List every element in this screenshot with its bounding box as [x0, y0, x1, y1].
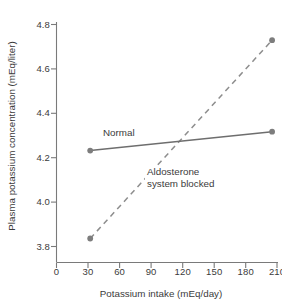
x-tick-0: 0 [40, 266, 74, 278]
y-tick-4.4: 4.4 [22, 108, 50, 118]
y-tick-4.0: 4.0 [22, 197, 50, 207]
y-tick-4.2: 4.2 [22, 153, 50, 163]
chart-figure: 4.8 4.6 4.4 4.2 4.0 3.8 0 30 60 90 120 1… [0, 0, 282, 308]
series-label-normal: Normal [101, 127, 137, 139]
x-tick-label: 60 [103, 266, 137, 278]
data-point-blocked-high [269, 37, 275, 43]
x-tick-label: 30 [71, 266, 105, 278]
x-tick-label: 210 [260, 266, 282, 278]
y-tick-label: 4.4 [24, 108, 50, 118]
y-tick-label: 3.8 [24, 242, 50, 252]
x-tick-label: 0 [40, 266, 74, 278]
y-tick-label: 4.0 [24, 197, 50, 207]
y-tick-3.8: 3.8 [22, 242, 50, 252]
series-label-aldosterone-blocked: Aldosterone system blocked [145, 166, 217, 189]
x-tick-label: 90 [134, 266, 168, 278]
y-tick-label: 4.6 [24, 64, 50, 74]
x-tick-60: 60 [103, 266, 137, 278]
data-point-normal-high [269, 129, 275, 135]
series-label-normal-text: Normal [103, 127, 135, 139]
x-tick-label: 150 [197, 266, 231, 278]
y-axis-ticks [51, 25, 57, 247]
y-tick-4.6: 4.6 [22, 64, 50, 74]
series-label-blocked-line2: system blocked [147, 178, 215, 190]
x-tick-210: 210 [260, 266, 282, 278]
x-tick-150: 150 [197, 266, 231, 278]
x-tick-30: 30 [71, 266, 105, 278]
series-line-aldosterone-blocked [90, 40, 272, 238]
x-axis-title: Potassium intake (mEq/day) [40, 288, 282, 300]
x-tick-label: 120 [166, 266, 200, 278]
x-tick-label: 180 [229, 266, 263, 278]
y-tick-4.8: 4.8 [22, 20, 50, 30]
y-tick-label: 4.8 [24, 20, 50, 30]
x-tick-180: 180 [229, 266, 263, 278]
y-axis-title: Plasma potassium concentration (mEq/lite… [6, 18, 18, 254]
series-label-blocked-line1: Aldosterone [147, 166, 215, 178]
x-tick-90: 90 [134, 266, 168, 278]
y-tick-label: 4.2 [24, 153, 50, 163]
x-tick-120: 120 [166, 266, 200, 278]
data-point-normal-low [87, 148, 93, 154]
data-point-blocked-low [87, 236, 93, 242]
